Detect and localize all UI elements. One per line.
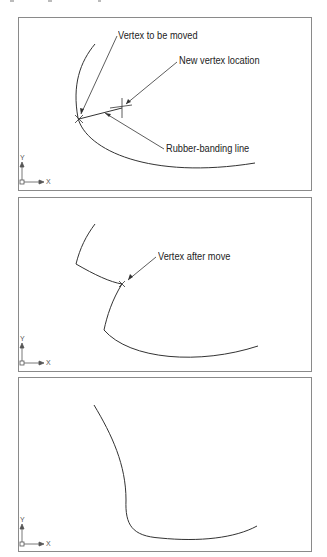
ucs-y-label: Y bbox=[20, 516, 25, 523]
cropped-caption-remnant bbox=[10, 0, 101, 2]
label-new-vertex-location: New vertex location bbox=[179, 54, 260, 66]
label-rubber-banding-line: Rubber-banding line bbox=[166, 142, 249, 154]
ucs-y-label: Y bbox=[20, 154, 25, 161]
label-vertex-to-be-moved: Vertex to be moved bbox=[118, 29, 198, 41]
panel-during-move bbox=[18, 197, 312, 372]
ucs-x-label: X bbox=[46, 359, 51, 366]
label-vertex-after-move: Vertex after move bbox=[158, 250, 230, 262]
panel-after-regen bbox=[18, 377, 312, 552]
ucs-x-label: X bbox=[46, 178, 51, 185]
ucs-y-label: Y bbox=[20, 335, 25, 342]
panel-before-move bbox=[18, 17, 312, 191]
ucs-x-label: X bbox=[46, 540, 51, 547]
